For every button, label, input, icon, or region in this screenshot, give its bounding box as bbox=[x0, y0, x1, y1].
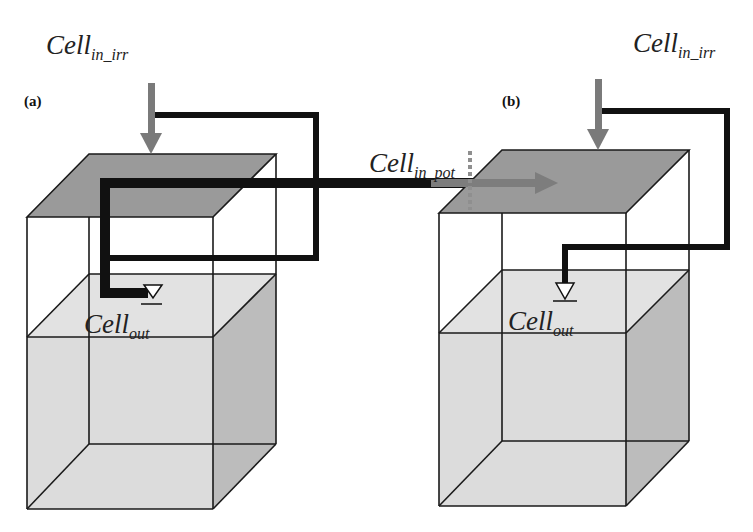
label-subscript: in_irr bbox=[678, 44, 715, 61]
panel-a-outflow-label: Cellout bbox=[84, 311, 149, 338]
panel-a-cell bbox=[27, 83, 490, 509]
label-base: Cell bbox=[369, 148, 414, 178]
panel-a-label: (a) bbox=[24, 94, 42, 109]
label-base: Cell bbox=[508, 306, 553, 336]
label-subscript: in_pot bbox=[414, 164, 455, 181]
label-base: Cell bbox=[46, 30, 91, 60]
label-subscript: in_irr bbox=[91, 46, 128, 63]
panel-a-soil-block bbox=[27, 274, 276, 509]
label-base: Cell bbox=[633, 28, 678, 58]
panel-b-soil-block bbox=[439, 270, 689, 506]
label-subscript: out bbox=[553, 322, 573, 339]
label-subscript: out bbox=[129, 325, 149, 342]
panel-b-inflow-irr-label: Cellin_irr bbox=[633, 30, 715, 57]
panel-a-inflow-irr-label: Cellin_irr bbox=[46, 32, 128, 59]
diagram-canvas bbox=[0, 0, 753, 532]
panel-b-inflow-pot-label: Cellin_pot bbox=[369, 150, 455, 177]
panel-a-irrigation-arrow bbox=[140, 83, 162, 154]
panel-b-cell bbox=[431, 79, 727, 506]
panel-b-outflow-label: Cellout bbox=[508, 308, 573, 335]
label-base: Cell bbox=[84, 309, 129, 339]
panel-b-irrigation-arrow bbox=[587, 79, 609, 150]
panel-b-label: (b) bbox=[502, 94, 520, 109]
